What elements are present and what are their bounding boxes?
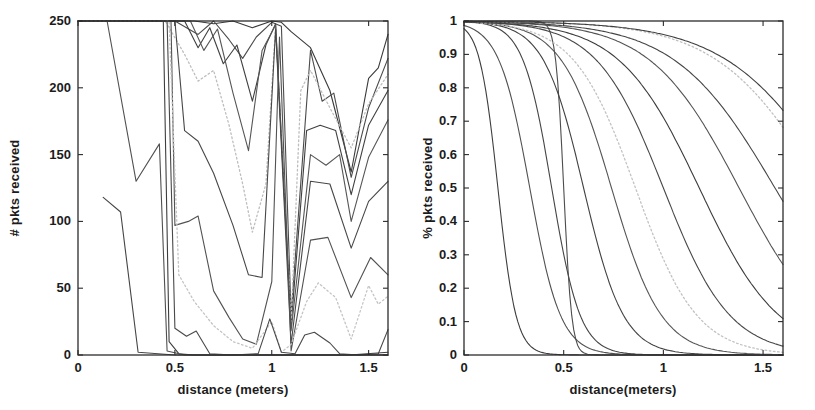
left-y-tick-label: 100 bbox=[49, 213, 71, 228]
pkt-count-trace-05-line bbox=[78, 21, 388, 331]
psr-fit-curve-11-line bbox=[464, 22, 783, 202]
pkt-count-trace-06-line bbox=[78, 21, 388, 344]
pkt-count-trace-08-line bbox=[78, 21, 388, 352]
right-y-tick-label: 0 bbox=[450, 347, 457, 362]
right-x-tick-label: 1 bbox=[660, 360, 667, 375]
psr-fit-curve-09-line bbox=[464, 22, 783, 319]
right-y-tick-label: 0.2 bbox=[439, 280, 457, 295]
left-y-axis-label: # pkts received bbox=[7, 140, 22, 237]
left-x-tick-label: 1 bbox=[268, 360, 275, 375]
pkt-count-trace-12-line bbox=[103, 197, 388, 355]
right-y-tick-label: 0.9 bbox=[439, 46, 457, 61]
psr-fit-curve-01-line bbox=[464, 29, 783, 355]
left-y-tick-label: 250 bbox=[49, 13, 71, 28]
left-x-tick-label: 0 bbox=[74, 360, 81, 375]
left-y-tick-label: 0 bbox=[64, 347, 71, 362]
right-y-tick-label: 0.4 bbox=[439, 213, 458, 228]
right-y-tick-label: 0.1 bbox=[439, 314, 457, 329]
psr-fit-curve-12-line bbox=[464, 21, 783, 127]
right-y-tick-label: 0.3 bbox=[439, 247, 457, 262]
left-y-tick-label: 200 bbox=[49, 80, 71, 95]
psr-fit-curve-03-line bbox=[464, 22, 783, 355]
scanned-figure-page: 00.511.505010015020025000.511.500.10.20.… bbox=[0, 0, 815, 410]
right-y-tick-label: 0.5 bbox=[439, 180, 457, 195]
right-y-axis-label: % pkts received bbox=[420, 137, 435, 238]
right-y-tick-label: 0.6 bbox=[439, 147, 457, 162]
psr-fit-curve-04-line bbox=[464, 21, 783, 355]
pkt-count-trace-01-line bbox=[78, 21, 388, 172]
pkt-count-trace-09-line bbox=[78, 21, 388, 355]
left-x-tick-label: 1.5 bbox=[360, 360, 378, 375]
left-axes-box bbox=[78, 21, 388, 355]
psr-fit-curve-05-line bbox=[464, 22, 783, 355]
psr-fit-curve-02-line bbox=[464, 26, 783, 356]
left-y-tick-label: 50 bbox=[57, 280, 71, 295]
psr-fit-curve-13-line bbox=[464, 21, 783, 110]
left-x-axis-label: distance (meters) bbox=[177, 382, 288, 397]
psr-fit-curve-06-line bbox=[464, 22, 783, 355]
dual-plot-canvas: 00.511.505010015020025000.511.500.10.20.… bbox=[0, 0, 815, 410]
pkt-count-trace-10-line bbox=[78, 21, 388, 355]
right-x-tick-label: 0.5 bbox=[555, 360, 573, 375]
psr-fit-curve-07-line bbox=[464, 22, 783, 352]
right-y-tick-label: 1 bbox=[450, 13, 457, 28]
pkt-count-trace-07-line bbox=[78, 21, 388, 351]
pkt-count-trace-03-line bbox=[78, 21, 388, 326]
right-axes-box bbox=[464, 21, 783, 355]
right-y-tick-label: 0.8 bbox=[439, 80, 457, 95]
right-x-tick-label: 0 bbox=[460, 360, 467, 375]
right-y-tick-label: 0.7 bbox=[439, 113, 457, 128]
right-x-tick-label: 1.5 bbox=[754, 360, 772, 375]
right-x-axis-label: distance(meters) bbox=[569, 382, 676, 397]
left-y-tick-label: 150 bbox=[49, 147, 71, 162]
pkt-count-trace-04-line bbox=[78, 21, 388, 322]
left-x-tick-label: 0.5 bbox=[166, 360, 184, 375]
